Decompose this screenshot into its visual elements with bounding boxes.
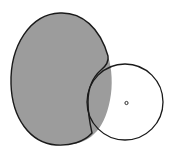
overlap-diagram — [0, 0, 173, 150]
circle-center-dot — [125, 101, 128, 104]
